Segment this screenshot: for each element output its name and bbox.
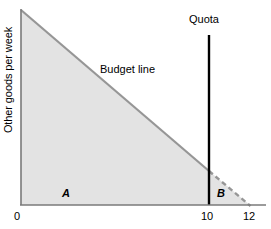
budget-line-quota-figure: Other goods per week Budget line Quota A… (0, 0, 271, 229)
x-tick-label-10: 10 (201, 211, 213, 222)
x-tick-label-12: 12 (243, 211, 255, 222)
x-tick-label-0: 0 (14, 211, 20, 222)
y-axis-title: Other goods per week (0, 0, 16, 160)
y-axis-title-text: Other goods per week (3, 27, 14, 133)
shaded-region-a (21, 10, 209, 205)
area-b-label: B (217, 188, 225, 199)
budget-line-label: Budget line (100, 64, 155, 75)
chart-canvas (0, 0, 271, 229)
area-a-label: A (62, 188, 70, 199)
quota-label: Quota (189, 14, 219, 25)
